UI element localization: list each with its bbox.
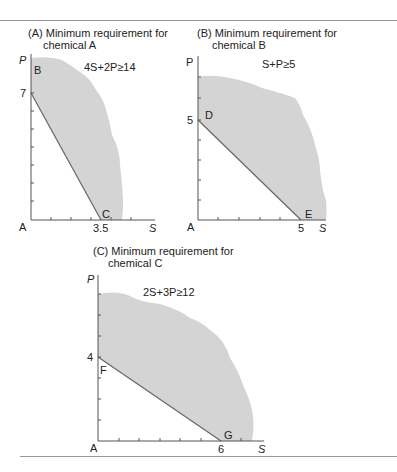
panel-a-chart: P 7 B 4S+2P≥14 C A 3.5 S <box>19 54 157 234</box>
panel-a-y-axis-label: P <box>19 54 27 66</box>
panel-b-constraint: S+P≥5 <box>262 58 295 70</box>
panel-a-x-axis-label: S <box>149 222 157 234</box>
panel-a-point-c: C <box>102 208 110 220</box>
panel-b-y-axis-label: P <box>186 56 193 68</box>
panel-c-chart: P 4 F 2S+3P≥12 G A 6 S <box>87 273 266 455</box>
panel-c-y-axis-label: P <box>87 273 95 285</box>
panel-b-x-intercept-label: 5 <box>298 222 304 234</box>
panel-b-point-d: D <box>205 109 213 121</box>
panel-a-x-intercept-label: 3.5 <box>93 222 108 234</box>
panel-c-feasible-region <box>98 292 254 441</box>
panel-a-origin-label: A <box>19 221 27 233</box>
panel-b-chart: P 5 D S+P≥5 E A 5 S <box>186 56 327 234</box>
panel-b-feasible-region <box>198 76 327 220</box>
panel-c-origin-label: A <box>90 442 98 454</box>
panel-a-feasible-region <box>31 57 123 220</box>
panel-c-y-intercept-label: 4 <box>87 351 93 363</box>
panel-b-origin-label: A <box>187 221 195 233</box>
panel-b-y-intercept-label: 5 <box>187 114 193 126</box>
panel-a-point-b: B <box>34 64 41 76</box>
panel-c-x-axis-label: S <box>258 443 266 455</box>
panel-b-x-axis-label: S <box>319 222 327 234</box>
panel-c-constraint: 2S+3P≥12 <box>143 286 195 298</box>
panel-c-point-f: F <box>100 364 107 376</box>
panel-c-x-intercept-label: 6 <box>218 443 224 455</box>
figure-canvas: P 7 B 4S+2P≥14 C A 3.5 S P 5 D S+P≥5 E A… <box>0 0 397 472</box>
panel-a-y-intercept-label: 7 <box>20 87 26 99</box>
panel-b-point-e: E <box>305 208 312 220</box>
panel-a-constraint: 4S+2P≥14 <box>84 61 136 73</box>
panel-c-point-g: G <box>224 429 233 441</box>
